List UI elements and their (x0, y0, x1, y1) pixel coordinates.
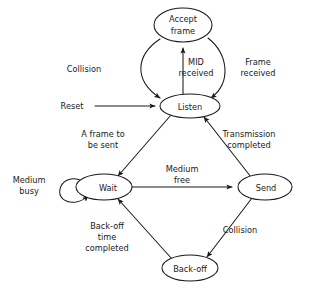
edge-label-medium-busy-line2: busy (19, 186, 39, 196)
edge-label-collision-top: Collision (67, 64, 101, 74)
edge-label-transmission-completed-line2: completed (227, 140, 270, 150)
edge-label-transmission-completed-line1: Transmission (222, 129, 276, 139)
edge-label-frame-received-line2: received (240, 68, 275, 78)
node-back-off[interactable]: Back-off (162, 255, 218, 281)
node-listen[interactable]: Listen (160, 94, 220, 118)
node-label-listen: Listen (178, 102, 203, 112)
state-diagram-canvas: Accept frame Listen Wait Send Back-off R… (0, 0, 311, 294)
edge-label-a-frame-to-be-sent-line2: be sent (88, 140, 119, 150)
edge-label-frame-received-line1: Frame (245, 57, 271, 67)
edge-label-backoff-time-completed-line2: time (98, 232, 117, 242)
edge-accept-frame-to-listen-collision (141, 39, 160, 98)
node-wait[interactable]: Wait (76, 174, 132, 200)
node-accept-frame[interactable]: Accept frame (154, 8, 212, 42)
node-label-accept-frame-line2: frame (171, 26, 195, 36)
edge-label-collision-bottom: Collision (223, 225, 257, 235)
edge-label-backoff-time-completed-line1: Back-off (90, 221, 124, 231)
node-label-send: Send (256, 183, 277, 193)
node-send[interactable]: Send (238, 174, 292, 200)
edge-line-a-frame-to-be-sent (118, 115, 171, 176)
edge-line-collision-top (141, 39, 160, 98)
edge-listen-to-wait (118, 115, 171, 176)
node-label-wait: Wait (99, 183, 118, 193)
edge-label-backoff-time-completed-line3: completed (85, 243, 128, 253)
edge-label-reset: Reset (61, 101, 85, 111)
edge-label-mid-received-line1: MID (188, 57, 204, 67)
node-label-back-off: Back-off (173, 264, 207, 274)
edge-label-medium-busy-line1: Medium (13, 175, 46, 185)
state-diagram-svg: Accept frame Listen Wait Send Back-off R… (0, 0, 311, 294)
edge-label-medium-free-line1: Medium (166, 164, 199, 174)
node-label-accept-frame-line1: Accept (169, 14, 198, 24)
edge-label-medium-free-line2: free (174, 175, 190, 185)
edge-label-mid-received-line2: received (178, 68, 213, 78)
edge-label-a-frame-to-be-sent-line1: A frame to (81, 129, 124, 139)
